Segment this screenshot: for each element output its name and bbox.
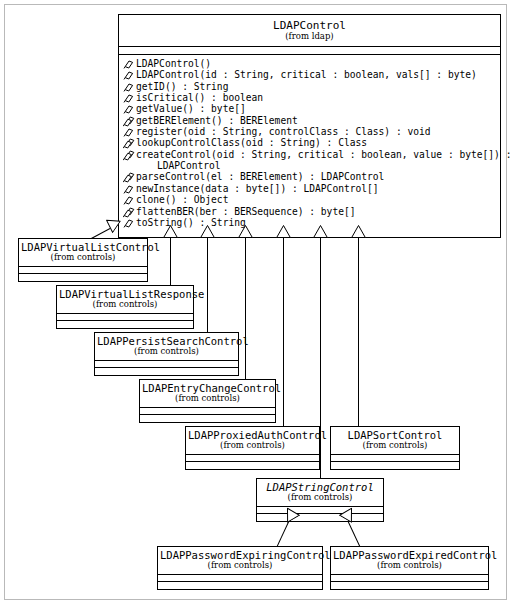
operation-row: createControl(oid : String, critical : b… bbox=[123, 149, 500, 160]
class-box-ldapproxiedauthcontrol[interactable]: LDAPProxiedAuthControl (from controls) bbox=[185, 426, 320, 470]
class-header: LDAPVirtualListControl (from controls) bbox=[19, 239, 147, 266]
operation-row: LDAPControl() bbox=[123, 58, 500, 69]
public-method-icon bbox=[123, 218, 135, 229]
operation-signature: getValue() : byte[] bbox=[135, 103, 246, 114]
class-package: (from controls) bbox=[160, 561, 320, 570]
static-method-icon bbox=[123, 138, 135, 149]
operation-signature: LDAPControl bbox=[156, 160, 221, 171]
class-header: LDAPSortControl (from controls) bbox=[331, 427, 459, 454]
operation-signature: flattenBER(ber : BERSequence) : byte[] bbox=[135, 206, 356, 217]
generalization-line-strc bbox=[320, 238, 321, 480]
generalization-line-sc bbox=[358, 238, 359, 428]
class-box-ldappersistsearchcontrol[interactable]: LDAPPersistSearchControl (from controls) bbox=[94, 332, 239, 376]
class-header: LDAPProxiedAuthControl (from controls) bbox=[186, 427, 319, 454]
class-header: LDAPVirtualListResponse (from controls) bbox=[57, 286, 193, 313]
operation-row: getValue() : byte[] bbox=[123, 103, 500, 114]
static-method-icon bbox=[123, 207, 135, 218]
public-method-icon bbox=[123, 184, 135, 195]
operation-row: lookupControlClass(oid : String) : Class bbox=[123, 137, 500, 148]
class-package: (from controls) bbox=[142, 394, 273, 403]
class-box-ldappasswordexpiredcontrol[interactable]: LDAPPasswordExpiredControl (from control… bbox=[330, 546, 489, 590]
operation-compartment-ldapcontrol: LDAPControl()LDAPControl(id : String, cr… bbox=[119, 55, 500, 230]
class-header: LDAPPasswordExpiredControl (from control… bbox=[331, 547, 488, 574]
operation-compartment bbox=[140, 415, 275, 420]
operation-signature: getBERElement() : BERElement bbox=[135, 115, 298, 126]
operation-signature: lookupControlClass(oid : String) : Class bbox=[135, 137, 367, 148]
operation-signature: toString() : String bbox=[135, 217, 246, 228]
public-method-icon bbox=[123, 104, 135, 115]
public-method-icon bbox=[123, 127, 135, 138]
generalization-arrow-sc bbox=[351, 225, 366, 238]
generalization-line-psc bbox=[207, 238, 208, 343]
generalization-line-pac bbox=[283, 238, 284, 428]
class-header: LDAPPasswordExpiringControl (from contro… bbox=[158, 547, 322, 574]
operation-compartment bbox=[331, 462, 459, 467]
class-header: LDAPEntryChangeControl (from controls) bbox=[140, 380, 275, 407]
operation-signature: parseControl(el : BERElement) : LDAPCont… bbox=[135, 171, 384, 182]
class-package: (from controls) bbox=[333, 561, 486, 570]
operation-compartment bbox=[257, 514, 383, 519]
operation-row: isCritical() : boolean bbox=[123, 92, 500, 103]
operation-row: newInstance(data : byte[]) : LDAPControl… bbox=[123, 183, 500, 194]
operation-signature: LDAPControl() bbox=[135, 58, 211, 69]
attribute-compartment-ldapcontrol bbox=[119, 47, 500, 54]
operation-row: LDAPControl(id : String, critical : bool… bbox=[123, 69, 500, 80]
class-package: (from controls) bbox=[333, 441, 457, 450]
operation-row: toString() : String bbox=[123, 217, 500, 228]
operation-signature: getID() : String bbox=[135, 81, 228, 92]
static-method-icon bbox=[123, 172, 135, 183]
operation-signature: createControl(oid : String, critical : b… bbox=[135, 149, 511, 160]
generalization-arrow-strc bbox=[313, 225, 328, 238]
class-package: (from controls) bbox=[59, 300, 191, 309]
operation-compartment bbox=[19, 274, 147, 279]
class-box-ldapvirtuallistcontrol[interactable]: LDAPVirtualListControl (from controls) bbox=[18, 238, 148, 282]
static-method-icon bbox=[123, 150, 135, 161]
generalization-arrow-ecc bbox=[238, 225, 253, 238]
generalization-arrow-vlr bbox=[163, 225, 178, 238]
operation-signature: clone() : Object bbox=[135, 194, 228, 205]
class-box-ldapentrychangecontrol[interactable]: LDAPEntryChangeControl (from controls) bbox=[139, 379, 276, 423]
operation-row: LDAPControl bbox=[123, 160, 500, 171]
operation-compartment bbox=[57, 321, 193, 326]
class-package: (from controls) bbox=[21, 253, 145, 262]
public-method-icon bbox=[123, 195, 135, 206]
static-method-icon bbox=[123, 116, 135, 127]
class-package-ldapcontrol: (from ldap) bbox=[121, 32, 498, 41]
operation-row: flattenBER(ber : BERSequence) : byte[] bbox=[123, 206, 500, 217]
operation-signature: newInstance(data : byte[]) : LDAPControl… bbox=[135, 183, 379, 194]
operation-row: getID() : String bbox=[123, 81, 500, 92]
operation-signature: register(oid : String, controlClass : Cl… bbox=[135, 126, 431, 137]
operation-row: getBERElement() : BERElement bbox=[123, 115, 500, 126]
class-box-ldapcontrol[interactable]: LDAPControl (from ldap) LDAPControl()LDA… bbox=[118, 14, 501, 238]
class-header: LDAPPersistSearchControl (from controls) bbox=[95, 333, 238, 360]
operation-row: clone() : Object bbox=[123, 194, 500, 205]
class-header-ldapcontrol: LDAPControl (from ldap) bbox=[119, 15, 500, 46]
class-box-ldapsortcontrol[interactable]: LDAPSortControl (from controls) bbox=[330, 426, 460, 470]
generalization-line-ecc bbox=[245, 238, 246, 381]
operation-row: register(oid : String, controlClass : Cl… bbox=[123, 126, 500, 137]
class-package: (from controls) bbox=[259, 493, 381, 502]
operation-signature: isCritical() : boolean bbox=[135, 92, 263, 103]
operation-compartment bbox=[95, 368, 238, 373]
public-method-icon bbox=[123, 59, 135, 70]
class-header: LDAPStringControl (from controls) bbox=[257, 479, 383, 506]
class-box-ldapstringcontrol[interactable]: LDAPStringControl (from controls) bbox=[256, 478, 384, 522]
class-package: (from controls) bbox=[188, 441, 317, 450]
generalization-arrow-psc bbox=[200, 225, 215, 238]
public-method-icon bbox=[123, 93, 135, 104]
operation-signature: LDAPControl(id : String, critical : bool… bbox=[135, 69, 477, 80]
operation-compartment bbox=[331, 582, 488, 587]
public-method-icon bbox=[123, 70, 135, 81]
public-method-icon bbox=[123, 82, 135, 93]
class-box-ldappasswordexpiringcontrol[interactable]: LDAPPasswordExpiringControl (from contro… bbox=[157, 546, 323, 590]
operation-row: parseControl(el : BERElement) : LDAPCont… bbox=[123, 171, 500, 182]
class-package: (from controls) bbox=[97, 347, 236, 356]
class-box-ldapvirtuallistresponse[interactable]: LDAPVirtualListResponse (from controls) bbox=[56, 285, 194, 329]
operation-compartment bbox=[186, 462, 319, 467]
generalization-arrow-pac bbox=[276, 225, 291, 238]
operation-compartment bbox=[158, 582, 322, 587]
